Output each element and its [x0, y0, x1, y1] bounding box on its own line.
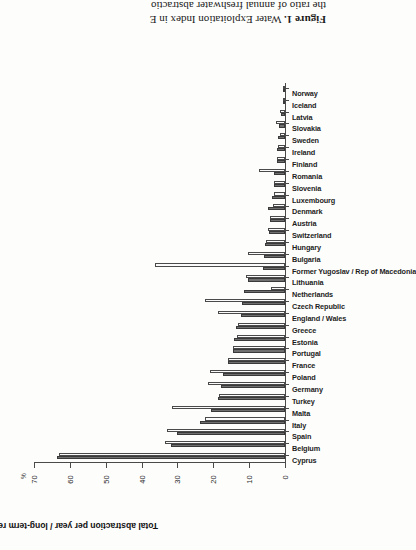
x-tick: [285, 455, 289, 456]
x-tick: [285, 171, 289, 172]
bar-series-1[interactable]: [228, 361, 285, 364]
bar-group[interactable]: Hungary: [34, 237, 285, 249]
bar-series-1[interactable]: [279, 124, 285, 127]
bar-series-1[interactable]: [233, 349, 285, 352]
bar-group[interactable]: Greece: [34, 320, 285, 332]
bar-group[interactable]: Romania: [34, 166, 285, 178]
bar-group[interactable]: Former Yugoslav / Rep of Macedonia: [34, 261, 285, 273]
bar-series-2[interactable]: [205, 417, 285, 420]
bar-group[interactable]: Turkey: [34, 391, 285, 403]
bar-group[interactable]: Austria: [34, 213, 285, 225]
bar-series-1[interactable]: [171, 444, 285, 447]
bar-series-1[interactable]: [270, 219, 285, 222]
bar-series-2[interactable]: [167, 429, 285, 432]
bar-group[interactable]: Norway: [34, 83, 285, 95]
bar-series-1[interactable]: [234, 338, 285, 341]
x-axis-category-label: Slovenia: [292, 184, 321, 193]
bar-series-1[interactable]: [281, 113, 285, 116]
bar-series-1[interactable]: [277, 160, 285, 163]
bar-series-2[interactable]: [237, 335, 285, 338]
bar-series-1[interactable]: [200, 421, 285, 424]
bar-series-1[interactable]: [269, 231, 285, 234]
bar-series-2[interactable]: [233, 346, 285, 349]
bar-series-2[interactable]: [276, 121, 285, 124]
bar-group[interactable]: Bulgaria: [34, 249, 285, 261]
bar-series-1[interactable]: [283, 89, 285, 92]
bar-series-2[interactable]: [274, 181, 285, 184]
bar-group[interactable]: Ireland: [34, 142, 285, 154]
bar-series-2[interactable]: [59, 453, 285, 456]
bar-group[interactable]: England / Wales: [34, 308, 285, 320]
bar-group[interactable]: Denmark: [34, 201, 285, 213]
bar-group[interactable]: Sweden: [34, 130, 285, 142]
bar-series-2[interactable]: [172, 406, 285, 409]
bar-series-1[interactable]: [218, 397, 285, 400]
bar-series-2[interactable]: [219, 394, 285, 397]
bar-series-1[interactable]: [248, 278, 285, 281]
bar-series-1[interactable]: [177, 432, 285, 435]
bar-series-1[interactable]: [236, 326, 285, 329]
bar-group[interactable]: Iceland: [34, 95, 285, 107]
bar-group[interactable]: Finland: [34, 154, 285, 166]
bar-series-2[interactable]: [165, 441, 285, 444]
bar-series-1[interactable]: [278, 136, 285, 139]
x-axis-category-label: Netherlands: [292, 290, 333, 299]
bar-series-2[interactable]: [277, 157, 285, 160]
bar-group[interactable]: Portugal: [34, 344, 285, 356]
bar-group[interactable]: Luxembourg: [34, 190, 285, 202]
bar-series-2[interactable]: [268, 228, 285, 231]
bar-group[interactable]: Estonia: [34, 332, 285, 344]
bar-series-2[interactable]: [238, 323, 285, 326]
bar-series-1[interactable]: [211, 409, 285, 412]
bar-group[interactable]: Cyprus: [34, 450, 285, 462]
bar-group[interactable]: France: [34, 355, 285, 367]
bar-series-2[interactable]: [205, 299, 285, 302]
bar-group[interactable]: Netherlands: [34, 284, 285, 296]
bar-series-2[interactable]: [259, 169, 285, 172]
bar-group[interactable]: Spain: [34, 426, 285, 438]
bar-series-2[interactable]: [273, 204, 285, 207]
bar-series-1[interactable]: [57, 456, 285, 459]
bar-series-1[interactable]: [274, 184, 285, 187]
bar-group[interactable]: Slovakia: [34, 119, 285, 131]
bar-series-2[interactable]: [246, 275, 285, 278]
bar-group[interactable]: Belgium: [34, 438, 285, 450]
bar-series-1[interactable]: [264, 255, 286, 258]
bar-series-2[interactable]: [248, 252, 285, 255]
bar-series-2[interactable]: [270, 216, 285, 219]
x-tick: [285, 277, 289, 278]
x-axis-category-label: Romania: [292, 172, 322, 181]
bar-series-1[interactable]: [268, 207, 285, 210]
bar-group[interactable]: Czech Republic: [34, 296, 285, 308]
bar-group[interactable]: Poland: [34, 367, 285, 379]
caption-text-1: Water Exploitation Index in E: [150, 14, 284, 26]
bar-group[interactable]: Lithuania: [34, 273, 285, 285]
bar-series-1[interactable]: [263, 267, 285, 270]
bar-series-2[interactable]: [278, 145, 285, 148]
bar-group[interactable]: Germany: [34, 379, 285, 391]
bar-series-1[interactable]: [241, 314, 285, 317]
bar-series-1[interactable]: [283, 101, 285, 104]
bar-series-1[interactable]: [221, 385, 285, 388]
y-axis-title: Total abstraction per year / long-term r…: [0, 521, 158, 531]
bar-group[interactable]: Malta: [34, 403, 285, 415]
bar-group[interactable]: Italy: [34, 415, 285, 427]
bar-series-1[interactable]: [272, 196, 285, 199]
bar-series-1[interactable]: [274, 172, 285, 175]
bar-series-2[interactable]: [210, 370, 285, 373]
bar-series-2[interactable]: [155, 263, 285, 266]
bar-series-1[interactable]: [244, 290, 285, 293]
bar-series-1[interactable]: [265, 243, 285, 246]
bar-series-1[interactable]: [277, 148, 285, 151]
bar-group[interactable]: Latvia: [34, 107, 285, 119]
bar-series-2[interactable]: [271, 287, 285, 290]
bar-series-2[interactable]: [208, 382, 285, 385]
bar-series-2[interactable]: [218, 311, 285, 314]
bar-series-2[interactable]: [266, 240, 285, 243]
bar-series-1[interactable]: [223, 373, 285, 376]
bar-group[interactable]: Slovenia: [34, 178, 285, 190]
bar-series-1[interactable]: [242, 302, 285, 305]
bar-series-2[interactable]: [274, 192, 285, 195]
bar-group[interactable]: Switzerland: [34, 225, 285, 237]
bar-series-2[interactable]: [228, 358, 285, 361]
